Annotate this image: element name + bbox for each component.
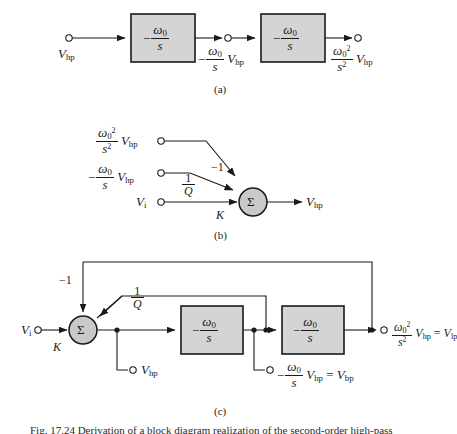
panel-b-output-label: Vhp — [306, 195, 323, 210]
panel-c-block1-label: −ω0s — [192, 316, 218, 345]
figure-caption: Fig. 17.24 Derivation of a block diagram… — [30, 424, 450, 434]
panel-b-input-mid-label: −ω0s Vhp — [88, 163, 134, 192]
panel-b-gain-k-label: K — [216, 209, 224, 221]
panel-letter-a: (a) — [214, 83, 226, 95]
panel-c-input-label: Vi — [21, 323, 31, 338]
panel-c-output-lp-label: ω02s2 Vhp = Vlp — [392, 321, 457, 348]
panel-b-input-top-label: ω02s2 Vhp — [96, 127, 138, 156]
panel-c-tap-hp-label: Vhp — [141, 363, 158, 378]
panel-a-output-label: ω02s2 Vhp — [331, 45, 373, 74]
panel-a-block2-label: −ω0s — [273, 24, 299, 53]
panel-c-gain-q-label: 1Q — [131, 285, 144, 310]
panel-b-gain-neg1-label: −1 — [211, 161, 224, 173]
panel-letter-c: (c) — [214, 405, 226, 417]
panel-c-gain-neg1-label: −1 — [59, 274, 72, 286]
panel-c-tap-bp-label: −ω0s Vhp = Vbp — [277, 361, 354, 390]
panel-c-summer-symbol: Σ — [77, 323, 85, 336]
panel-b-summer-symbol: Σ — [247, 195, 255, 208]
panel-a-input-label: Vhp — [58, 47, 75, 62]
panel-b-wires — [158, 138, 302, 216]
panel-a-mid-label: −ω0s Vhp — [198, 45, 244, 74]
panel-a-block1-label: −ω0s — [143, 24, 169, 53]
panel-c-block2-label: −ω0s — [293, 316, 319, 345]
panel-letter-b: (b) — [214, 229, 227, 241]
panel-b-input-bot-label: Vi — [136, 195, 146, 210]
panel-b-gain-q-label: 1Q — [182, 172, 195, 197]
panel-c-gain-k-label: K — [53, 341, 61, 353]
